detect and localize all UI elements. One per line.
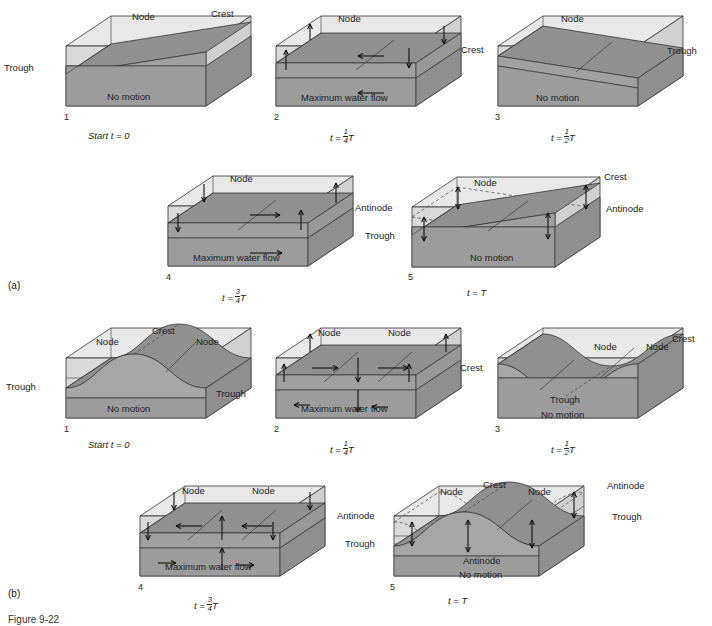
section-label-a: (a)	[8, 281, 20, 291]
label-node-right: Node	[528, 487, 551, 497]
label-crest: Crest	[211, 9, 234, 19]
label-trough-right: Trough	[612, 512, 642, 522]
label-crest-left: Crest	[460, 363, 483, 373]
panel-number: 5	[408, 273, 413, 282]
label-max-flow: Maximum water flow	[193, 253, 280, 263]
section-label-b: (b)	[8, 589, 20, 599]
panel-number: 1	[64, 113, 69, 122]
panel-b4	[130, 478, 330, 598]
panel-number: 4	[138, 583, 143, 592]
label-crest: Crest	[461, 45, 484, 55]
label-crest: Crest	[152, 326, 175, 336]
label-no-motion: No motion	[107, 92, 150, 102]
label-node: Node	[132, 12, 155, 22]
label-node-left: Node	[96, 337, 119, 347]
time-label-b2: t = 14T	[330, 440, 354, 456]
label-trough: Trough	[550, 395, 580, 405]
panel-number: 2	[274, 425, 279, 434]
label-node-left: Node	[440, 487, 463, 497]
label-node-right: Node	[388, 328, 411, 338]
panel-number: 5	[390, 583, 395, 592]
time-label-a4: t = 34T	[222, 288, 246, 304]
label-no-motion: No motion	[541, 410, 584, 420]
panel-b3	[488, 320, 688, 440]
label-crest-right: Crest	[672, 334, 695, 344]
time-label-a2: t = 14T	[330, 128, 354, 144]
panel-number: 1	[64, 425, 69, 434]
label-node-left: Node	[318, 328, 341, 338]
label-max-flow: Maximum water flow	[301, 404, 388, 414]
time-label-a3: t = 12T	[551, 128, 575, 144]
label-node-right: Node	[252, 486, 275, 496]
figure-caption: Figure 9-22	[8, 614, 59, 626]
label-max-flow: Maximum water flow	[165, 562, 252, 572]
label-node-left: Node	[182, 486, 205, 496]
time-label-a1: Start t = 0	[88, 131, 129, 141]
label-trough: Trough	[365, 231, 395, 241]
panel-number: 3	[495, 425, 500, 434]
label-antinode-right: Antinode	[607, 481, 645, 491]
panel-a3	[488, 8, 688, 128]
time-label-a5: t = T	[467, 288, 486, 298]
label-trough: Trough	[4, 63, 34, 73]
label-node: Node	[338, 14, 361, 24]
label-no-motion: No motion	[107, 404, 150, 414]
label-trough: Trough	[667, 46, 697, 56]
label-trough-right: Trough	[216, 389, 246, 399]
panel-b2	[266, 320, 466, 440]
label-node: Node	[230, 174, 253, 184]
label-max-flow: Maximum water flow	[301, 93, 388, 103]
label-node: Node	[561, 14, 584, 24]
panel-a5	[400, 165, 610, 290]
panel-a4	[158, 168, 358, 288]
label-trough-left: Trough	[345, 539, 375, 549]
time-label-b5: t = T	[448, 596, 467, 606]
label-no-motion: No motion	[459, 570, 502, 580]
label-antinode-right: Antinode	[606, 204, 644, 214]
panel-b1	[56, 320, 256, 440]
label-crest: Crest	[483, 480, 506, 490]
label-no-motion: No motion	[470, 253, 513, 263]
time-label-b4: t = 34T	[194, 596, 218, 612]
panel-number: 3	[495, 113, 500, 122]
panel-a2	[266, 8, 466, 128]
label-node-right: Node	[646, 342, 669, 352]
label-trough-left: Trough	[6, 382, 36, 392]
panel-number: 4	[166, 273, 171, 282]
label-antinode-left: Antinode	[355, 203, 393, 213]
label-node-right: Node	[196, 337, 219, 347]
time-label-b1: Start t = 0	[88, 440, 129, 450]
panel-a1	[56, 8, 256, 128]
time-label-b3: t = 12T	[551, 440, 575, 456]
label-node: Node	[474, 178, 497, 188]
label-antinode-center: Antinode	[463, 556, 501, 566]
label-crest: Crest	[604, 172, 627, 182]
label-antinode-left: Antinode	[337, 511, 375, 521]
label-node-left: Node	[594, 342, 617, 352]
label-no-motion: No motion	[536, 93, 579, 103]
panel-number: 2	[274, 113, 279, 122]
